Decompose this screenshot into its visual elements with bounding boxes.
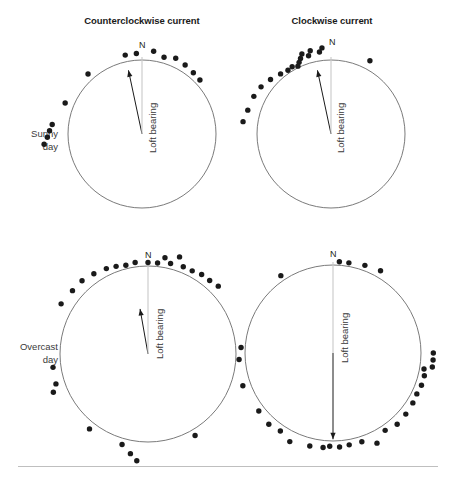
data-point — [151, 48, 156, 53]
data-point — [430, 357, 435, 362]
data-point — [278, 71, 283, 76]
column-title-counterclockwise: Counterclockwise current — [52, 15, 232, 26]
data-point — [155, 260, 160, 265]
data-point — [113, 264, 118, 269]
data-point — [278, 428, 283, 433]
data-point — [173, 56, 178, 61]
loft-bearing-arrow-shaft — [317, 70, 331, 134]
data-point — [51, 390, 56, 395]
data-point — [430, 364, 435, 369]
data-point — [295, 63, 300, 68]
north-label-sunny-counterclockwise: N — [139, 40, 146, 50]
footer-divider — [18, 466, 438, 467]
data-point — [422, 373, 427, 378]
data-point — [79, 278, 84, 283]
data-point — [85, 71, 90, 76]
plot-svg-overcast-counterclockwise — [50, 250, 250, 460]
data-point — [419, 383, 424, 388]
data-point — [181, 264, 186, 269]
data-point — [145, 260, 150, 265]
data-point — [251, 94, 256, 99]
loft-bearing-label-overcast-clockwise: Loft bearing — [339, 313, 350, 363]
data-point — [278, 273, 283, 278]
data-point-group — [41, 48, 202, 147]
data-point-group — [236, 259, 436, 450]
data-point — [307, 443, 312, 448]
data-point — [128, 451, 133, 456]
data-point — [123, 52, 128, 57]
data-point — [403, 411, 408, 416]
data-point — [47, 128, 52, 133]
data-point — [289, 64, 294, 69]
data-point — [268, 77, 273, 82]
orientation-figure: Counterclockwise current Clockwise curre… — [0, 0, 455, 479]
plot-sunny-counterclockwise — [60, 38, 230, 218]
data-point — [256, 408, 261, 413]
data-point — [177, 254, 182, 259]
data-point — [197, 77, 202, 82]
loft-bearing-arrow — [127, 70, 142, 134]
data-point — [306, 53, 311, 58]
data-point — [41, 142, 46, 147]
loft-bearing-arrow — [330, 353, 335, 439]
loft-bearing-arrow-shaft — [140, 309, 148, 354]
data-point — [240, 383, 245, 388]
data-point — [421, 366, 426, 371]
data-point — [240, 119, 245, 124]
data-point — [378, 268, 383, 273]
data-point — [317, 49, 322, 54]
data-point — [45, 135, 50, 140]
data-point — [134, 458, 139, 463]
loft-bearing-arrow-head — [330, 433, 335, 440]
data-point — [182, 62, 187, 67]
data-point — [266, 422, 271, 427]
data-point — [62, 100, 67, 105]
data-point — [191, 70, 196, 75]
loft-bearing-label-overcast-counterclockwise: Loft bearing — [154, 309, 165, 359]
loft-bearing-arrow-shaft — [128, 70, 142, 134]
loft-bearing-arrow-head — [127, 70, 132, 77]
north-label-overcast-counterclockwise: N — [145, 250, 152, 260]
loft-bearing-label-sunny-counterclockwise: Loft bearing — [147, 103, 158, 153]
north-label-sunny-clockwise: N — [329, 37, 336, 47]
data-point — [199, 272, 204, 277]
data-point — [119, 442, 124, 447]
data-point — [258, 84, 263, 89]
north-label-overcast-clockwise: N — [330, 249, 337, 259]
data-point — [367, 58, 372, 63]
data-point — [287, 439, 292, 444]
data-point — [190, 268, 195, 273]
data-point — [207, 278, 212, 283]
column-title-clockwise: Clockwise current — [252, 15, 412, 26]
data-point — [337, 259, 342, 264]
loft-bearing-arrow-head — [316, 70, 321, 77]
data-point — [431, 350, 436, 355]
data-point — [410, 400, 415, 405]
loft-bearing-label-sunny-clockwise: Loft bearing — [335, 103, 346, 153]
data-point-group — [50, 254, 243, 463]
data-point — [346, 260, 351, 265]
data-point — [87, 426, 92, 431]
data-point — [123, 263, 128, 268]
plot-overcast-counterclockwise — [50, 250, 250, 460]
data-point — [394, 422, 399, 427]
loft-bearing-arrow-head — [139, 309, 144, 316]
data-point — [327, 444, 332, 449]
data-point — [308, 48, 313, 53]
data-point — [162, 255, 167, 260]
loft-bearing-arrow — [139, 309, 148, 354]
data-point — [58, 301, 63, 306]
data-point — [168, 261, 173, 266]
data-point — [362, 263, 367, 268]
data-point — [53, 381, 58, 386]
data-point — [347, 442, 352, 447]
data-point — [91, 271, 96, 276]
loft-bearing-arrow — [316, 70, 331, 134]
data-point — [236, 357, 241, 362]
data-point — [382, 428, 387, 433]
data-point — [216, 283, 221, 288]
data-point — [245, 107, 250, 112]
data-point — [285, 68, 290, 73]
data-point — [337, 444, 342, 449]
data-point — [104, 266, 109, 271]
